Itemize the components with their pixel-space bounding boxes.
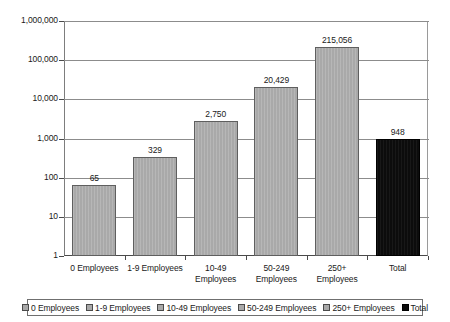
bar-value-label: 2,750 [176, 109, 256, 119]
x-axis-category-label-line: Total [353, 263, 443, 274]
legend-item[interactable]: 50-249 Employees [238, 303, 316, 313]
x-axis-category-label: Total [353, 263, 443, 274]
legend-item[interactable]: 10-49 Employees [157, 303, 231, 313]
legend-item[interactable]: 250+ Employees [323, 303, 394, 313]
y-tick-mark [59, 217, 64, 218]
y-axis-label: 10,000 [0, 94, 58, 103]
bar-value-label: 65 [54, 173, 134, 183]
x-axis-category-label-line: Employees [292, 274, 382, 285]
bar-value-label: 215,056 [297, 35, 377, 45]
y-axis-label: 1,000,000 [0, 16, 58, 25]
gridline-100000 [64, 60, 429, 61]
gridline-10000 [64, 99, 429, 100]
bar-value-label: 20,429 [236, 75, 316, 85]
y-axis-label: 100 [0, 173, 58, 182]
y-tick-mark [59, 60, 64, 61]
y-axis-label: 100,000 [0, 55, 58, 64]
bar-value-label: 948 [358, 127, 438, 137]
legend-item[interactable]: Total [402, 303, 428, 313]
legend-label: 0 Employees [31, 303, 79, 313]
x-tick-mark [125, 256, 126, 260]
y-axis-label: 1 [0, 251, 58, 260]
bar-0-employees [72, 185, 116, 256]
x-tick-mark [307, 256, 308, 260]
legend-label: 50-249 Employees [247, 303, 316, 313]
legend-swatch-icon [238, 304, 245, 311]
bar-1-9-employees [133, 157, 177, 256]
legend-swatch-icon [86, 304, 93, 311]
legend-item[interactable]: 1-9 Employees [86, 303, 150, 313]
y-tick-mark [59, 21, 64, 22]
y-tick-mark [59, 139, 64, 140]
legend-swatch-icon [323, 304, 330, 311]
legend-label: 1-9 Employees [95, 303, 150, 313]
gridline-10 [64, 217, 429, 218]
bar-value-label: 329 [115, 145, 195, 155]
legend-swatch-icon [402, 304, 409, 311]
x-tick-mark [367, 256, 368, 260]
legend-label: 250+ Employees [332, 303, 394, 313]
x-tick-mark [246, 256, 247, 260]
legend-label: 10-49 Employees [166, 303, 231, 313]
y-tick-mark [59, 99, 64, 100]
gridline-1000000 [64, 21, 429, 22]
bar-50-249-employees [254, 87, 298, 256]
chart-legend: 0 Employees1-9 Employees10-49 Employees5… [27, 299, 423, 316]
legend-label: Total [411, 303, 428, 313]
legend-item[interactable]: 0 Employees [22, 303, 79, 313]
bar-250-employees [315, 47, 359, 256]
bar-chart: 1,000,000100,00010,0001,000100101 653292… [0, 0, 450, 322]
legend-swatch-icon [157, 304, 164, 311]
gridline-1000 [64, 139, 429, 140]
x-tick-mark [428, 256, 429, 260]
y-tick-mark [59, 256, 64, 257]
y-axis-label: 1,000 [0, 134, 58, 143]
bar-total [376, 139, 420, 256]
y-axis-label: 10 [0, 212, 58, 221]
legend-swatch-icon [22, 304, 29, 311]
x-tick-mark [185, 256, 186, 260]
bar-10-49-employees [194, 121, 238, 256]
